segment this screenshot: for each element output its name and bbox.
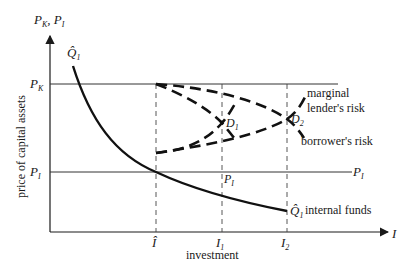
pi-right-label: PI <box>352 164 364 181</box>
x-axis-label: I <box>391 226 397 241</box>
tick-i1: I1 <box>215 235 224 252</box>
borrowers-risk-curve-1 <box>156 84 236 140</box>
d1-label: D1 <box>225 116 239 132</box>
internal-funds-label: internal funds <box>305 203 372 217</box>
y-axis-label: PK, PI <box>33 12 65 29</box>
lenders-risk-label-1: marginal <box>307 86 350 100</box>
y-axis-title: price of capital assets <box>14 95 28 198</box>
pi-label: PI <box>29 164 41 181</box>
pi-mid-label: PI <box>223 172 234 188</box>
q1-right-label: Q̂1 <box>290 203 303 220</box>
d2-label: D2 <box>290 112 304 128</box>
x-axis-title: investment <box>186 248 239 262</box>
borrowers-risk-label: borrower's risk <box>301 134 373 148</box>
investment-diagram: PK, PI price of capital assets I investm… <box>0 0 412 272</box>
lenders-risk-label-2: lender's risk <box>307 101 365 115</box>
tick-i-hat: Î <box>151 235 158 250</box>
tick-i2: I2 <box>280 235 289 252</box>
pk-label: PK <box>29 76 44 93</box>
internal-funds-curve <box>73 66 287 211</box>
q1-top-label: Q̂1 <box>67 45 80 62</box>
